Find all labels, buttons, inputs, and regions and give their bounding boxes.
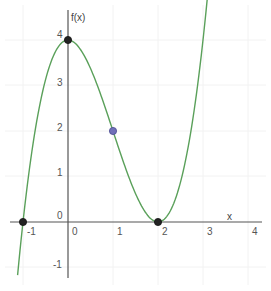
data-point: [154, 218, 161, 225]
y-tick-label: 1: [57, 167, 63, 178]
grid: [5, 5, 266, 285]
x-tick-label: 4: [252, 226, 258, 237]
y-tick-label: 3: [57, 77, 63, 88]
x-tick-label: 3: [207, 226, 213, 237]
data-point: [64, 36, 71, 43]
data-point: [109, 127, 116, 134]
y-tick-labels: 4 3 2 1 0 -1: [53, 29, 63, 270]
x-tick-label: 0: [72, 226, 78, 237]
data-point: [19, 218, 26, 225]
function-plot: f(x) x -1 0 1 2 3 4 4 3 2 1 0 -1: [0, 0, 271, 291]
y-axis-label: f(x): [71, 12, 85, 23]
y-tick-label: 2: [57, 122, 63, 133]
x-tick-label: 1: [117, 226, 123, 237]
y-tick-label: 4: [57, 29, 63, 40]
x-axis-label: x: [227, 211, 232, 222]
x-tick-label: -1: [27, 226, 36, 237]
y-tick-label: -1: [53, 259, 62, 270]
y-tick-label: 0: [57, 210, 63, 221]
x-tick-label: 2: [162, 226, 168, 237]
x-tick-labels: -1 0 1 2 3 4: [27, 226, 258, 237]
